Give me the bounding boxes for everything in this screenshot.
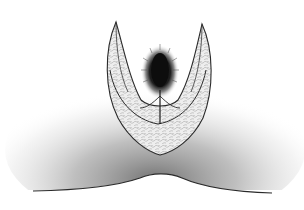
botanical-sketch (0, 0, 304, 210)
illustration-canvas (0, 0, 304, 210)
